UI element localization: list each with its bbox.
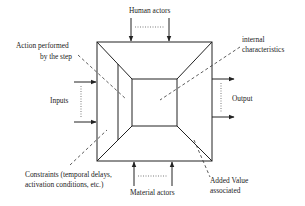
inputs-arrows xyxy=(74,82,96,122)
added-value-leader xyxy=(194,140,210,177)
leader-lines xyxy=(70,47,240,177)
frustum-edges xyxy=(97,42,212,161)
constraints-leader xyxy=(70,130,107,165)
human-actors-label: Human actors xyxy=(129,6,170,15)
material-actors-arrows xyxy=(134,162,172,186)
action-leader xyxy=(78,55,126,99)
material-actors-label: Material actors xyxy=(130,188,175,197)
inputs-label: Inputs xyxy=(50,96,68,105)
internal-label-line2: characteristics xyxy=(242,45,284,54)
constraints-label-line1: Constraints (temporal delays, xyxy=(25,170,112,179)
action-label-line2: by the step xyxy=(40,52,72,61)
output-arrows xyxy=(212,79,234,117)
constraints-label-line2: activation conditions, etc.) xyxy=(25,180,103,189)
output-label: Output xyxy=(232,94,253,103)
action-label-line1: Action performed xyxy=(16,41,69,50)
added-value-label-line2: associated xyxy=(210,186,240,195)
added-value-label-line1: Added Value xyxy=(210,176,248,185)
human-actors-arrows xyxy=(131,18,169,41)
internal-label-line1: internal xyxy=(242,35,265,44)
inner-box xyxy=(132,79,177,126)
